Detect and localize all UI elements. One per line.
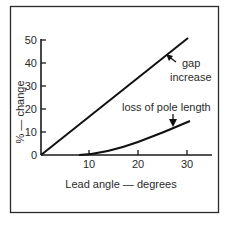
gap-increase-annotation: gap increase — [166, 54, 212, 83]
y-tick-label: 0 — [31, 149, 37, 161]
y-tick-label: 50 — [25, 34, 37, 46]
y-tick-label: 20 — [25, 103, 37, 115]
y-tick-label: 40 — [25, 57, 37, 69]
arrow-icon — [166, 54, 173, 61]
chart-figure: 50 40 30 20 10 0 % — change 10 20 30 Lea… — [0, 0, 229, 226]
x-tick-label: 10 — [83, 158, 95, 170]
series-gap-increase — [41, 38, 188, 155]
y-axis-label: % — change — [14, 81, 26, 144]
annotation-text: gap — [182, 57, 200, 69]
y-tick-label: 10 — [25, 126, 37, 138]
x-tick-label: 30 — [181, 158, 193, 170]
annotation-text: increase — [170, 71, 212, 83]
y-tick-label: 30 — [25, 80, 37, 92]
arrow-icon — [169, 119, 177, 127]
annotation-text: loss of pole length — [122, 101, 211, 113]
x-axis-label: Lead angle — degrees — [65, 178, 177, 190]
x-axis: 10 20 30 Lead angle — degrees — [41, 150, 212, 190]
x-tick-label: 20 — [132, 158, 144, 170]
y-axis: 50 40 30 20 10 0 % — change — [14, 34, 46, 161]
loss-of-pole-length-annotation: loss of pole length — [122, 101, 211, 127]
